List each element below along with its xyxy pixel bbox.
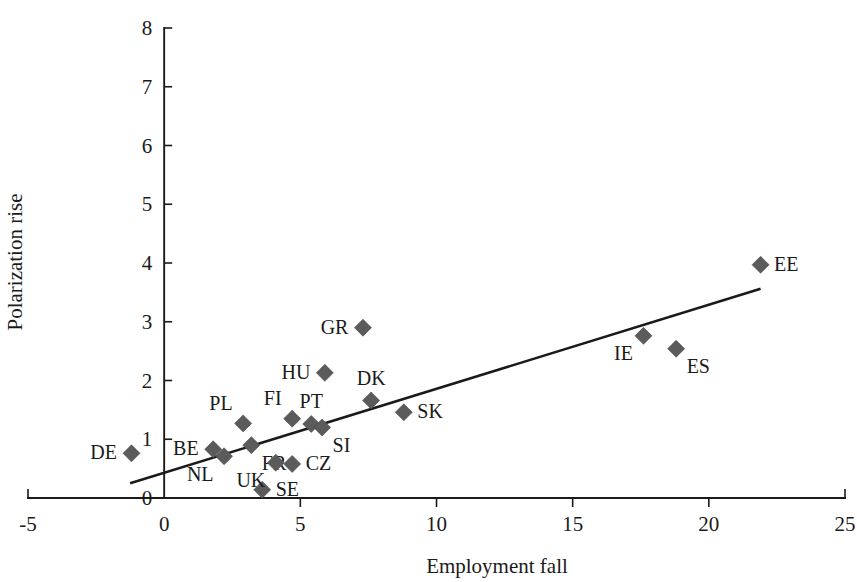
data-point-marker-hu: [316, 364, 333, 381]
y-axis-title: Polarization rise: [3, 193, 27, 330]
data-point-marker-pl: [235, 415, 252, 432]
plot-area: 012345678 -50510152025 DEBENLPLFRSEUKFIC…: [0, 0, 857, 582]
data-point-label-pl: PL: [209, 392, 232, 414]
data-point-label-hu: HU: [281, 361, 310, 383]
data-point-label-fi: FI: [264, 387, 282, 409]
data-point-marker-sk: [395, 404, 412, 421]
y-tick-label: 5: [142, 192, 153, 216]
data-point-label-se: SE: [276, 478, 299, 500]
y-tick-label: 3: [142, 310, 153, 334]
data-point-label-ee: EE: [774, 253, 798, 275]
x-tick-label: 20: [698, 512, 719, 536]
y-tick-label: 4: [142, 251, 153, 275]
x-tick-label: 5: [295, 512, 306, 536]
x-tick-label: 25: [835, 512, 856, 536]
data-point-marker-de: [123, 445, 140, 462]
data-point-label-ie: IE: [614, 342, 633, 364]
data-point-label-nl: NL: [187, 463, 214, 485]
data-point-label-dk: DK: [357, 367, 386, 389]
x-tick-label: 15: [562, 512, 583, 536]
data-point-marker-ee: [752, 256, 769, 273]
y-tick-label: 2: [142, 369, 153, 393]
scatter-chart: 012345678 -50510152025 DEBENLPLFRSEUKFIC…: [0, 0, 857, 582]
data-point-label-si: SI: [333, 434, 351, 456]
data-point-label-uk: UK: [236, 469, 265, 491]
data-point-label-pt: PT: [300, 390, 323, 412]
data-points: DEBENLPLFRSEUKFICZPTSIHUGRDKSKIEESEE: [90, 253, 798, 500]
y-tick-label: 8: [142, 16, 153, 40]
data-point-label-sk: SK: [417, 400, 443, 422]
x-tick-label: 10: [426, 512, 447, 536]
data-point-marker-fr: [243, 437, 260, 454]
data-point-label-de: DE: [90, 441, 117, 463]
x-tick-label: 0: [159, 512, 170, 536]
y-axis-ticks: 012345678: [142, 16, 173, 510]
data-point-label-gr: GR: [321, 316, 349, 338]
data-point-label-be: BE: [173, 437, 199, 459]
y-tick-label: 6: [142, 134, 153, 158]
data-point-marker-gr: [354, 319, 371, 336]
data-point-marker-ie: [635, 327, 652, 344]
data-point-marker-es: [668, 340, 685, 357]
data-point-label-es: ES: [687, 355, 710, 377]
data-point-marker-fi: [284, 410, 301, 427]
x-tick-label: -5: [19, 512, 37, 536]
x-axis-title: Employment fall: [426, 554, 568, 578]
y-tick-label: 7: [142, 75, 153, 99]
y-tick-label: 1: [142, 427, 153, 451]
data-point-label-cz: CZ: [306, 452, 332, 474]
